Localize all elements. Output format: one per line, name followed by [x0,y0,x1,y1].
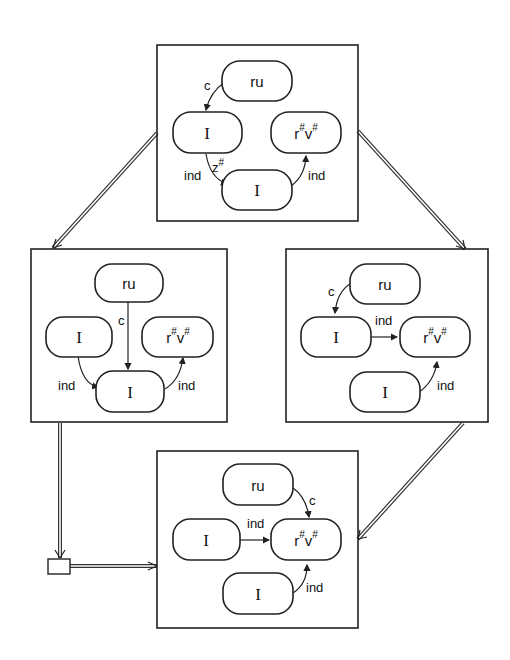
node-label: ru [250,73,263,90]
junction-box [48,559,70,574]
edge-label: ind [184,168,201,183]
panel-bottom: ru I r#v# I c ind ind [157,451,358,628]
transition-middle-right-to-bottom [358,423,463,539]
node-label: I [333,328,339,347]
edge-label: ind [306,580,323,595]
transition-junction-to-bottom [70,562,157,570]
transition-top-to-middle-left [53,133,157,248]
node-label: I [255,585,261,604]
edge-label: ind [308,168,325,183]
node-label: ru [378,276,391,293]
panel-middle-right: ru I r#v# I c ind ind [286,249,488,422]
edge-label: c [309,493,316,508]
edge-label: c [204,78,211,93]
node-label: I [127,383,133,402]
transition-top-to-middle-right [358,131,465,249]
node-label: I [203,531,209,550]
edge-ind [78,356,98,387]
edge-label: ind [437,378,454,393]
edge-ind [293,565,307,593]
edge-c [335,284,350,313]
node-label: I [76,328,82,347]
node-label: I [254,181,260,200]
edge-c [293,488,309,517]
node-label: I [382,383,388,402]
diagram-canvas: ru I r#v# I c ind z# ind ru I r#v# I c i… [0,0,510,660]
edge-ind [419,362,437,392]
panel-top: ru I r#v# I c ind z# ind [157,45,358,221]
edge-ind [291,156,306,186]
edge-label: c [118,313,125,328]
node-label: I [204,124,210,143]
transition-middle-left-to-junction [55,423,65,558]
edge-label: ind [375,313,392,328]
node-label: ru [251,477,264,494]
edge-label-z: z# [212,157,225,175]
edge-label: c [328,284,335,299]
edge-label: ind [247,516,264,531]
edge-label: ind [178,378,195,393]
edge-label: ind [58,378,75,393]
panel-middle-left: ru I r#v# I c ind ind [31,249,227,422]
node-label: ru [122,275,135,292]
